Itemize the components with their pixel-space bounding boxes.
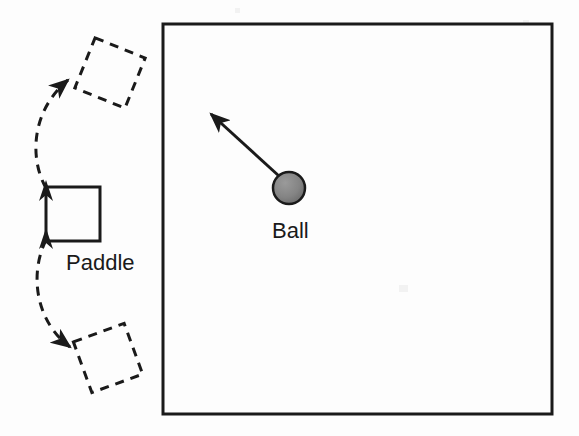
rotation-arc-upward <box>36 80 68 188</box>
paddle-square[interactable] <box>46 187 100 241</box>
ball-label: Ball <box>272 218 309 243</box>
ghost-paddle-lower <box>73 323 142 392</box>
play-field-border <box>163 24 552 414</box>
diagram-canvas: Paddle Ball <box>0 0 579 436</box>
diagram-root: Paddle Ball <box>0 0 579 436</box>
ghost-paddle-upper <box>75 38 145 108</box>
paddle-label: Paddle <box>66 250 135 275</box>
ball-velocity-arrow <box>211 114 279 176</box>
ball-circle[interactable] <box>273 172 305 204</box>
